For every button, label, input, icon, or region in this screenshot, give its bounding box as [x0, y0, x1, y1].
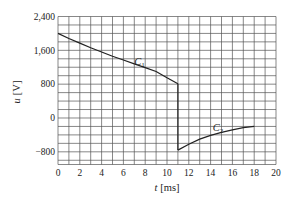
y-tick-label: 2,400: [34, 12, 56, 22]
x-tick-label: 14: [206, 168, 216, 178]
x-tick-label: 16: [228, 168, 238, 178]
x-axis-label: t[ms]: [154, 182, 179, 193]
y-tick-label: 0: [50, 113, 55, 123]
x-tick-label: 12: [184, 168, 194, 178]
grid-lines: [58, 17, 276, 165]
x-axis-ticks: 02468101214161820: [56, 168, 281, 178]
y-tick-label: 800: [41, 79, 56, 89]
x-tick-label: 8: [143, 168, 148, 178]
x-tick-label: 20: [271, 168, 281, 178]
x-tick-label: 10: [162, 168, 172, 178]
y-tick-label: 1,600: [34, 46, 56, 56]
x-tick-label: 18: [249, 168, 259, 178]
y-tick-label: −800: [35, 147, 55, 157]
y-axis-label: u[V]: [11, 81, 22, 104]
x-tick-label: 6: [121, 168, 126, 178]
x-tick-label: 0: [56, 168, 61, 178]
chart: 2,4001,6008000−800 02468101214161820 t[m…: [0, 0, 295, 197]
x-tick-label: 2: [77, 168, 82, 178]
y-axis-ticks: 2,4001,6008000−800: [34, 12, 56, 157]
x-tick-label: 4: [99, 168, 104, 178]
